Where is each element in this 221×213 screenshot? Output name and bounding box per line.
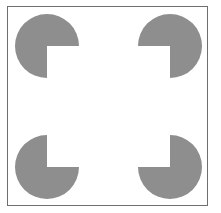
kanizsa-figure [0,0,221,213]
